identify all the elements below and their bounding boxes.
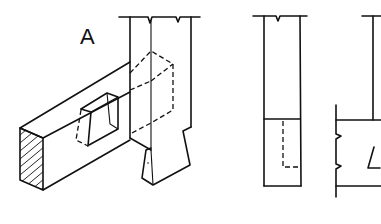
view-label-a: A: [80, 26, 95, 48]
front-elevation: [253, 16, 307, 186]
post-bottom-corner: [151, 150, 153, 185]
isometric-view: [14, 17, 200, 212]
front-top-break-line: [253, 16, 307, 21]
hidden-mortise-edge: [151, 64, 173, 81]
drawing-canvas: A: [0, 0, 381, 224]
joint-drawing: [0, 0, 381, 224]
post-dot: [147, 162, 149, 164]
hidden-mortise-edge-2: [130, 81, 151, 90]
post-top-break-line: [119, 17, 200, 23]
beam-bottom-edge: [43, 140, 130, 190]
beam-notch-top: [91, 97, 118, 112]
side-triangle-mark: [368, 147, 380, 168]
post-bottom-profile: [142, 127, 191, 185]
front-hidden-tenon: [283, 121, 300, 167]
front-right-edge: [300, 16, 301, 186]
post-bottom-edge: [130, 138, 151, 150]
side-elevation: [336, 16, 381, 197]
side-break-line: [336, 105, 341, 197]
